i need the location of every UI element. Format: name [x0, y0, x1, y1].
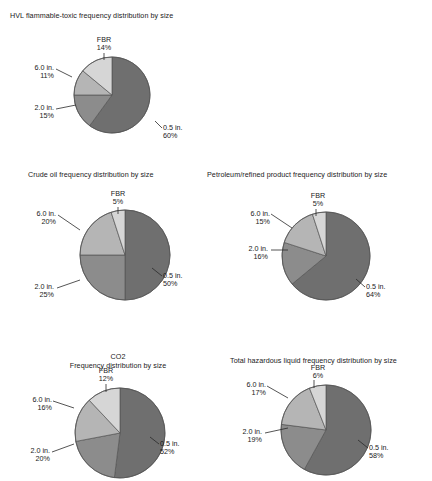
leader-lines-total: [0, 0, 432, 481]
pie-chart-figure: { "figure": { "background": "#ffffff", "…: [0, 0, 432, 481]
